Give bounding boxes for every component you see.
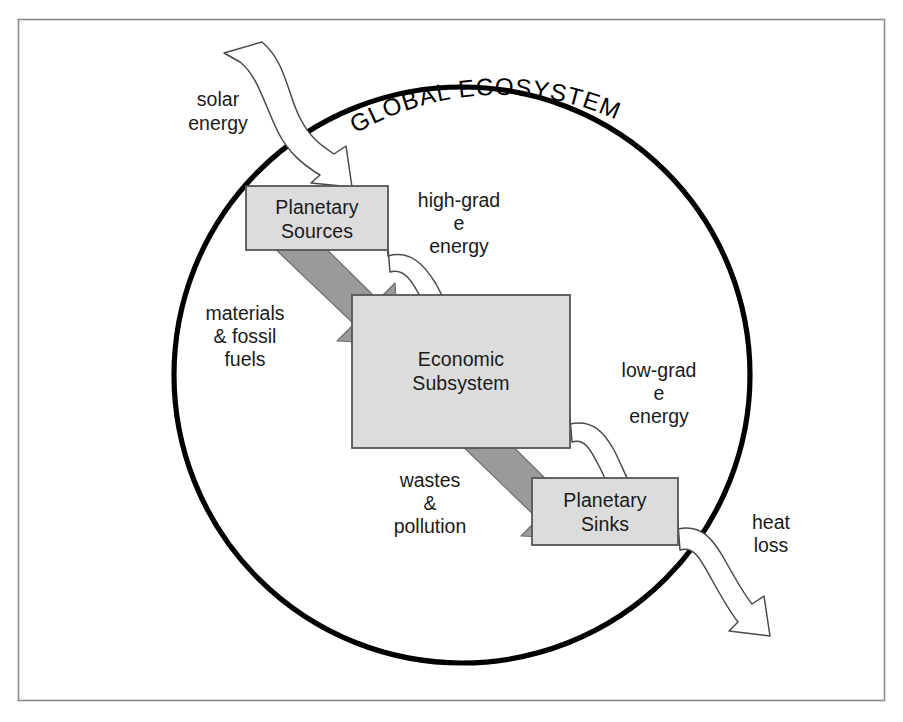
planetary-sources-label-line2: Sources	[281, 220, 353, 242]
heat-loss-label-line2: loss	[754, 534, 789, 556]
materials-fossil-fuels-label-line1: materials	[205, 302, 284, 324]
high-grade-energy-label-line2: e	[454, 212, 465, 234]
economic-subsystem-label-line1: Economic	[418, 348, 505, 370]
planetary-sources-label-line1: Planetary	[275, 196, 358, 218]
low-grade-energy-label-line3: energy	[629, 405, 689, 427]
planetary-sinks-label-line2: Sinks	[581, 513, 629, 535]
materials-fossil-fuels-label-line2: & fossil	[214, 325, 277, 347]
wastes-pollution-label-line3: pollution	[394, 515, 467, 537]
wastes-pollution-label-line2: &	[423, 492, 436, 514]
heat-loss-label-line1: heat	[752, 511, 791, 533]
low-grade-energy-label-line1: low-grad	[622, 359, 697, 381]
wastes-pollution-label-line1: wastes	[399, 469, 461, 491]
low-grade-energy-label-line2: e	[654, 382, 665, 404]
planetary-sinks-label-line1: Planetary	[563, 489, 646, 511]
figure-caption-strip	[18, 712, 518, 722]
heat-loss-label: heat loss	[752, 511, 791, 556]
planetary-sinks-box[interactable]: Planetary Sinks	[532, 478, 678, 545]
materials-fossil-fuels-label-line3: fuels	[224, 348, 265, 370]
ecosystem-diagram: GLOBAL ECOSYSTEM Planetary Sources Econo…	[0, 0, 903, 722]
solar-energy-label-line1: solar	[197, 88, 240, 110]
high-grade-energy-label-line1: high-grad	[418, 189, 500, 211]
planetary-sources-box[interactable]: Planetary Sources	[246, 186, 388, 250]
high-grade-energy-label-line3: energy	[429, 235, 489, 257]
economic-subsystem-label-line2: Subsystem	[412, 372, 509, 394]
diagram-root: GLOBAL ECOSYSTEM Planetary Sources Econo…	[0, 0, 903, 722]
economic-subsystem-box[interactable]: Economic Subsystem	[352, 295, 570, 448]
solar-energy-label-line2: energy	[188, 112, 248, 134]
